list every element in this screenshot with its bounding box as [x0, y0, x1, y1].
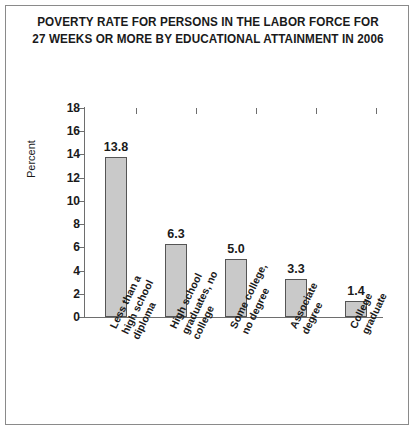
y-tick-label-4: 4	[73, 263, 80, 279]
y-tick-label-2: 2	[73, 286, 80, 302]
x-tick-boundary-3	[256, 108, 257, 114]
bar-value-label: 5.0	[227, 242, 244, 257]
y-tick-label-12: 12	[67, 170, 80, 186]
bar-value-label: 3.3	[287, 262, 304, 277]
y-axis-title: Percent	[25, 140, 37, 178]
y-tick-label-6: 6	[73, 239, 80, 255]
x-tick-boundary-1	[136, 108, 137, 114]
x-tick-boundary-4	[316, 108, 317, 114]
x-tick-boundary-2	[196, 108, 197, 114]
y-tick-label-18: 18	[67, 100, 80, 116]
y-tick-label-0: 0	[73, 309, 80, 325]
bar-value-label: 13.8	[104, 140, 128, 155]
bar-value-label: 6.3	[167, 227, 184, 242]
y-tick-label-8: 8	[73, 216, 80, 232]
y-tick-label-16: 16	[67, 123, 80, 139]
x-tick-boundary-5	[376, 108, 377, 114]
y-tick-label-14: 14	[67, 146, 80, 162]
y-tick-label-10: 10	[67, 193, 80, 209]
chart-title: POVERTY RATE FOR PERSONS IN THE LABOR FO…	[31, 14, 384, 48]
chart-figure: POVERTY RATE FOR PERSONS IN THE LABOR FO…	[0, 0, 416, 432]
